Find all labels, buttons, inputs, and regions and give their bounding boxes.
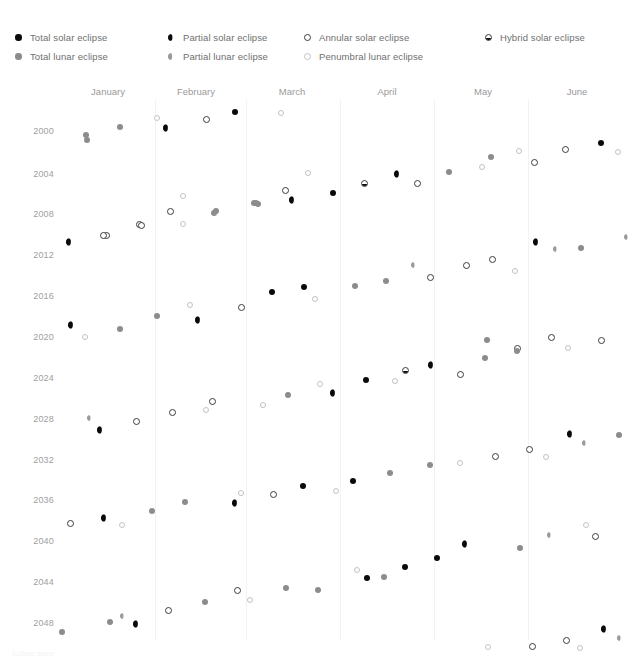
eclipse-point-partial-solar[interactable] xyxy=(533,238,540,245)
eclipse-point-annular-solar[interactable] xyxy=(489,256,496,263)
eclipse-point-annular-solar[interactable] xyxy=(414,180,421,187)
eclipse-point-penumbral-lunar[interactable] xyxy=(260,402,267,409)
eclipse-point-total-solar[interactable] xyxy=(330,190,337,197)
eclipse-point-partial-solar[interactable] xyxy=(289,196,296,203)
eclipse-point-partial-solar[interactable] xyxy=(330,389,337,396)
eclipse-point-partial-lunar[interactable] xyxy=(547,532,553,538)
eclipse-point-total-lunar[interactable] xyxy=(514,348,521,355)
eclipse-point-penumbral-lunar[interactable] xyxy=(247,597,254,604)
eclipse-point-total-solar[interactable] xyxy=(301,284,308,291)
eclipse-point-partial-lunar[interactable] xyxy=(617,635,623,641)
eclipse-point-penumbral-lunar[interactable] xyxy=(543,454,550,461)
eclipse-point-annular-solar[interactable] xyxy=(457,371,464,378)
eclipse-point-total-lunar[interactable] xyxy=(352,283,359,290)
eclipse-point-total-lunar[interactable] xyxy=(202,599,209,606)
eclipse-point-penumbral-lunar[interactable] xyxy=(305,170,312,177)
eclipse-point-hybrid-solar[interactable] xyxy=(402,367,409,374)
eclipse-point-penumbral-lunar[interactable] xyxy=(317,381,324,388)
eclipse-point-partial-lunar[interactable] xyxy=(582,440,588,446)
eclipse-point-annular-solar[interactable] xyxy=(529,643,536,650)
eclipse-point-penumbral-lunar[interactable] xyxy=(485,644,492,651)
eclipse-point-total-lunar[interactable] xyxy=(381,574,388,581)
legend-item-total-solar[interactable]: Total solar eclipse xyxy=(14,28,108,47)
eclipse-point-annular-solar[interactable] xyxy=(598,337,605,344)
eclipse-point-penumbral-lunar[interactable] xyxy=(479,164,486,171)
eclipse-point-annular-solar[interactable] xyxy=(234,587,241,594)
eclipse-point-penumbral-lunar[interactable] xyxy=(577,645,584,652)
eclipse-point-partial-solar[interactable] xyxy=(462,540,469,547)
eclipse-point-partial-lunar[interactable] xyxy=(624,234,630,240)
eclipse-point-partial-lunar[interactable] xyxy=(120,613,126,619)
eclipse-point-total-lunar[interactable] xyxy=(482,355,489,362)
eclipse-point-penumbral-lunar[interactable] xyxy=(333,488,340,495)
eclipse-point-total-lunar[interactable] xyxy=(484,337,491,344)
eclipse-point-total-lunar[interactable] xyxy=(446,169,453,176)
eclipse-point-total-lunar[interactable] xyxy=(283,585,290,592)
eclipse-point-penumbral-lunar[interactable] xyxy=(615,149,622,156)
eclipse-point-partial-solar[interactable] xyxy=(428,361,435,368)
eclipse-point-annular-solar[interactable] xyxy=(138,222,145,229)
eclipse-point-partial-solar[interactable] xyxy=(567,430,574,437)
eclipse-point-annular-solar[interactable] xyxy=(531,159,538,166)
eclipse-point-total-lunar[interactable] xyxy=(117,124,124,131)
eclipse-point-penumbral-lunar[interactable] xyxy=(278,110,285,117)
eclipse-point-penumbral-lunar[interactable] xyxy=(187,302,194,309)
eclipse-point-annular-solar[interactable] xyxy=(526,446,533,453)
eclipse-point-annular-solar[interactable] xyxy=(592,533,599,540)
eclipse-point-penumbral-lunar[interactable] xyxy=(238,490,245,497)
eclipse-point-total-solar[interactable] xyxy=(269,289,276,296)
eclipse-point-total-lunar[interactable] xyxy=(427,462,434,469)
eclipse-point-total-solar[interactable] xyxy=(598,140,605,147)
eclipse-point-penumbral-lunar[interactable] xyxy=(154,115,161,122)
eclipse-point-total-lunar[interactable] xyxy=(517,545,524,552)
eclipse-point-partial-lunar[interactable] xyxy=(411,262,417,268)
legend-item-hybrid-solar[interactable]: Hybrid solar eclipse xyxy=(484,28,585,47)
eclipse-point-annular-solar[interactable] xyxy=(270,491,277,498)
eclipse-point-penumbral-lunar[interactable] xyxy=(180,221,187,228)
eclipse-point-total-lunar[interactable] xyxy=(616,432,623,439)
eclipse-point-penumbral-lunar[interactable] xyxy=(512,268,519,275)
eclipse-point-total-lunar[interactable] xyxy=(315,587,322,594)
eclipse-point-penumbral-lunar[interactable] xyxy=(392,378,399,385)
eclipse-point-annular-solar[interactable] xyxy=(169,409,176,416)
eclipse-point-partial-solar[interactable] xyxy=(601,625,608,632)
eclipse-point-annular-solar[interactable] xyxy=(67,520,74,527)
eclipse-point-annular-solar[interactable] xyxy=(427,274,434,281)
eclipse-point-total-solar[interactable] xyxy=(232,109,239,116)
eclipse-point-partial-solar[interactable] xyxy=(394,170,401,177)
eclipse-point-total-lunar[interactable] xyxy=(117,326,124,333)
eclipse-point-penumbral-lunar[interactable] xyxy=(457,460,464,467)
eclipse-point-annular-solar[interactable] xyxy=(165,607,172,614)
eclipse-point-total-lunar[interactable] xyxy=(154,313,161,320)
eclipse-point-penumbral-lunar[interactable] xyxy=(119,522,126,529)
eclipse-point-total-lunar[interactable] xyxy=(285,392,292,399)
eclipse-point-partial-solar[interactable] xyxy=(133,620,140,627)
eclipse-point-partial-solar[interactable] xyxy=(163,124,170,131)
eclipse-point-total-lunar[interactable] xyxy=(84,137,91,144)
eclipse-point-total-lunar[interactable] xyxy=(211,210,218,217)
eclipse-point-penumbral-lunar[interactable] xyxy=(516,148,523,155)
eclipse-point-total-solar[interactable] xyxy=(434,555,441,562)
eclipse-point-total-solar[interactable] xyxy=(363,377,370,384)
eclipse-point-partial-solar[interactable] xyxy=(232,499,239,506)
eclipse-point-penumbral-lunar[interactable] xyxy=(180,193,187,200)
eclipse-point-partial-lunar[interactable] xyxy=(87,415,93,421)
eclipse-point-partial-solar[interactable] xyxy=(68,321,75,328)
eclipse-point-annular-solar[interactable] xyxy=(238,304,245,311)
legend-item-partial-solar[interactable]: Partial solar eclipse xyxy=(167,28,268,47)
eclipse-point-total-lunar[interactable] xyxy=(578,245,585,252)
eclipse-point-total-lunar[interactable] xyxy=(255,201,262,208)
eclipse-point-penumbral-lunar[interactable] xyxy=(82,334,89,341)
eclipse-point-total-solar[interactable] xyxy=(402,564,409,571)
eclipse-point-partial-solar[interactable] xyxy=(97,426,104,433)
eclipse-point-total-lunar[interactable] xyxy=(488,154,495,161)
eclipse-point-penumbral-lunar[interactable] xyxy=(565,345,572,352)
eclipse-point-partial-solar[interactable] xyxy=(195,316,202,323)
legend-item-total-lunar[interactable]: Total lunar eclipse xyxy=(14,47,108,66)
eclipse-point-partial-solar[interactable] xyxy=(101,514,108,521)
eclipse-point-annular-solar[interactable] xyxy=(563,637,570,644)
eclipse-point-total-lunar[interactable] xyxy=(182,499,189,506)
eclipse-point-annular-solar[interactable] xyxy=(492,453,499,460)
eclipse-point-penumbral-lunar[interactable] xyxy=(203,407,210,414)
eclipse-point-penumbral-lunar[interactable] xyxy=(354,567,361,574)
